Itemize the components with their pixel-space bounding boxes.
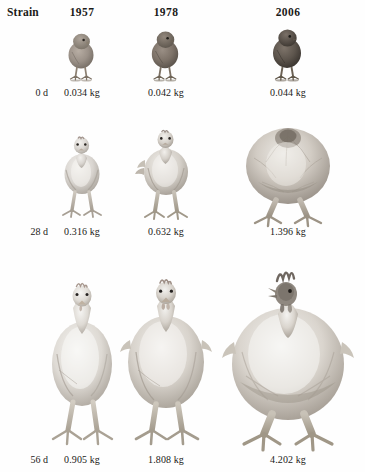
weight-1957-56d: 0.905 kg	[64, 454, 100, 465]
weight-1957-28d: 0.316 kg	[64, 226, 100, 237]
strain-header-label: Strain	[7, 6, 39, 18]
chick-1957-0d	[62, 28, 102, 86]
column-header-1957: 1957	[70, 6, 95, 18]
chicken-1978-28d	[129, 124, 203, 224]
column-header-1978: 1978	[154, 6, 179, 18]
weight-2006-56d: 4.202 kg	[270, 454, 306, 465]
weight-2006-0d: 0.044 kg	[270, 87, 306, 98]
weight-1978-0d: 0.042 kg	[148, 87, 184, 98]
row-label-56d: 56 d	[6, 454, 48, 465]
column-header-2006: 2006	[276, 6, 301, 18]
chicken-1978-56d	[114, 266, 218, 450]
weight-1957-0d: 0.034 kg	[64, 87, 100, 98]
chicken-1957-28d	[51, 130, 113, 222]
broiler-strain-comparison-figure: Strain 1957 1978 2006 0 d 28 d 56 d	[0, 0, 365, 472]
chicken-2006-56d	[220, 256, 356, 452]
chick-1978-0d	[145, 26, 187, 86]
row-label-0d: 0 d	[10, 87, 48, 98]
weight-2006-28d: 1.396 kg	[270, 226, 306, 237]
weight-1978-28d: 0.632 kg	[148, 226, 184, 237]
chicken-2006-28d	[236, 118, 340, 230]
chick-2006-0d	[266, 24, 310, 86]
row-label-28d: 28 d	[6, 226, 48, 237]
weight-1978-56d: 1.808 kg	[148, 454, 184, 465]
